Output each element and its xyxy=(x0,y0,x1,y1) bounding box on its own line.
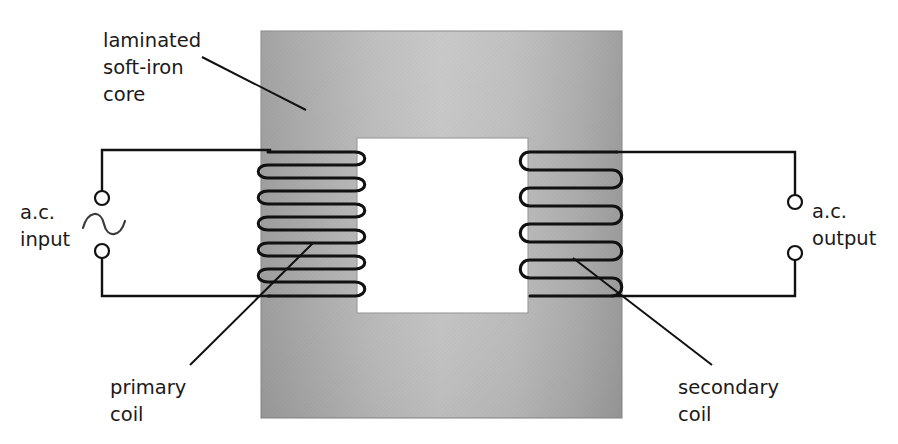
secondary-circuit-wiring xyxy=(612,152,802,296)
core-window xyxy=(357,138,528,313)
primary-coil-label-line2: coil xyxy=(110,403,144,426)
ac-sine-symbol xyxy=(83,214,125,234)
ac-output-terminal-bottom[interactable] xyxy=(788,246,802,260)
label-primary-coil: primary coil xyxy=(110,376,186,426)
transformer-diagram: laminated soft-iron core a.c. input a.c.… xyxy=(0,0,898,444)
ac-input-label-line2: input xyxy=(20,228,71,251)
ac-input-terminal-bottom[interactable] xyxy=(95,244,109,258)
label-ac-input: a.c. input xyxy=(20,201,71,251)
ac-input-label-line1: a.c. xyxy=(20,201,55,224)
primary-coil-label-line1: primary xyxy=(110,376,186,399)
primary-circuit-wiring xyxy=(83,150,270,296)
secondary-coil-label-line2: coil xyxy=(678,403,712,426)
secondary-coil-label-line1: secondary xyxy=(678,376,779,399)
label-ac-output: a.c. output xyxy=(812,200,877,250)
secondary-bottom-lead xyxy=(612,260,795,296)
ac-output-label-line2: output xyxy=(812,227,877,250)
secondary-top-lead xyxy=(617,152,795,195)
diagram-canvas: laminated soft-iron core a.c. input a.c.… xyxy=(0,0,898,444)
ac-input-terminal-top[interactable] xyxy=(95,191,109,205)
core-label-line1: laminated xyxy=(103,29,201,52)
label-laminated-soft-iron-core: laminated soft-iron core xyxy=(103,29,201,106)
primary-top-lead xyxy=(102,150,270,191)
core-label-line3: core xyxy=(103,83,145,106)
ac-output-label-line1: a.c. xyxy=(812,200,847,223)
ac-output-terminal-top[interactable] xyxy=(788,195,802,209)
core-label-line2: soft-iron xyxy=(103,56,184,79)
primary-bottom-lead xyxy=(102,258,270,296)
label-secondary-coil: secondary coil xyxy=(678,376,779,426)
